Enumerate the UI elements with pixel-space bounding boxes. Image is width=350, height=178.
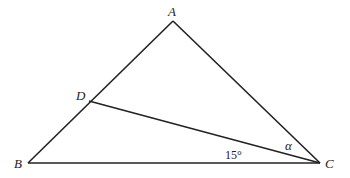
segment-ac: [173, 21, 320, 163]
segment-dc: [89, 101, 320, 163]
diagram-canvas: A D B C 15° α: [0, 0, 350, 178]
segment-ab: [28, 21, 173, 163]
label-point-d: D: [75, 88, 86, 103]
label-angle-alpha: α: [285, 138, 293, 153]
label-angle-dcb: 15°: [225, 148, 242, 162]
label-point-a: A: [167, 4, 176, 19]
label-point-c: C: [325, 156, 334, 171]
label-point-b: B: [14, 156, 22, 171]
triangle-diagram: A D B C 15° α: [0, 0, 350, 178]
